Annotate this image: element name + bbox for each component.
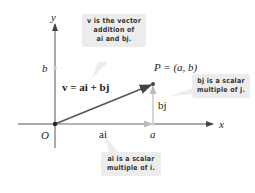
x-tick-label: a [150,129,156,140]
callout-vector-addition: v is the vector addition of ai and bj. [82,14,146,47]
callout-bj-scalar: bj is a scalar multiple of j. [192,74,250,98]
point-p [151,82,155,86]
vector-ai-label: ai [99,129,107,140]
x-axis-label: x [219,119,224,130]
origin-point [53,122,57,126]
y-axis-label: y [51,12,56,23]
tick-b [53,66,57,70]
y-tick-label: b [42,63,48,74]
tick-a [151,122,155,126]
vector-v-label: v = ai + bj [62,82,109,93]
point-p-label: P = (a, b) [154,62,197,73]
callout-ai-scalar: ai is a scalar multiple of i. [101,152,161,176]
callout-tail-v [92,62,108,78]
callout-tail-bj [170,88,193,96]
origin-label: O [41,130,49,141]
vector-bj-label: bj [158,100,167,111]
